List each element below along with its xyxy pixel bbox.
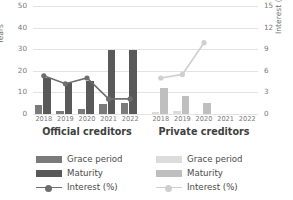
interest-data-point: [41, 73, 46, 78]
legend-marker-interest-private: [156, 184, 182, 191]
legend-item-interest-official[interactable]: Interest (%): [36, 180, 156, 194]
panel-title-official: Official creditors: [33, 126, 141, 137]
legend-swatch-grace-official: [36, 156, 62, 163]
interest-data-point: [63, 81, 68, 86]
legend-swatch-maturity-private: [156, 170, 182, 177]
x-tick-label: 2022: [236, 116, 258, 123]
interest-data-point: [106, 96, 111, 101]
x-tick-label: 2021: [98, 116, 120, 123]
panel-title-private: Private creditors: [150, 126, 258, 137]
legend-item-maturity-private[interactable]: Maturity: [156, 166, 276, 180]
y-tick-right: 9: [264, 45, 286, 52]
panel-official-creditors: 20182019202020212022 Official creditors: [33, 6, 141, 114]
legend-label-interest-private: Interest (%): [187, 183, 238, 192]
legend-private: Grace period Maturity Interest (%): [156, 152, 276, 194]
legend-item-grace-official[interactable]: Grace period: [36, 152, 156, 166]
x-tick-label: 2018: [33, 116, 55, 123]
y-tick-left: 0: [7, 110, 27, 117]
legend-swatch-maturity-official: [36, 170, 62, 177]
legend-swatch-grace-private: [156, 156, 182, 163]
plot-area: 20182019202020212022 Official creditors …: [33, 6, 258, 114]
legend-item-grace-private[interactable]: Grace period: [156, 152, 276, 166]
x-tick-label: 2019: [172, 116, 194, 123]
y-tick-right: 0: [264, 110, 286, 117]
y-tick-right: 15: [264, 2, 286, 9]
legend-official: Grace period Maturity Interest (%): [36, 152, 156, 194]
x-tick-label: 2022: [119, 116, 141, 123]
legend-label-grace-private: Grace period: [187, 155, 243, 164]
legend-item-maturity-official[interactable]: Maturity: [36, 166, 156, 180]
y-tick-left: 30: [7, 45, 27, 52]
interest-line-official: [33, 6, 141, 114]
chart-container: Years Interest (%) 01020304050 03691215 …: [0, 0, 293, 200]
y-tick-right: 6: [264, 67, 286, 74]
interest-line-private: [150, 6, 258, 114]
x-tick-label: 2019: [55, 116, 77, 123]
legend-label-interest-official: Interest (%): [67, 183, 118, 192]
y-tick-left: 20: [7, 67, 27, 74]
x-tick-label: 2018: [150, 116, 172, 123]
legend-label-grace-official: Grace period: [67, 155, 123, 164]
y-tick-right: 12: [264, 24, 286, 31]
panel-private-creditors: 20182019202020212022 Private creditors: [150, 6, 258, 114]
x-tick-label: 2021: [215, 116, 237, 123]
interest-data-point: [201, 40, 206, 45]
interest-data-point: [128, 96, 133, 101]
y-tick-left: 40: [7, 24, 27, 31]
y-tick-right: 3: [264, 88, 286, 95]
y-tick-left: 50: [7, 2, 27, 9]
legend-item-interest-private[interactable]: Interest (%): [156, 180, 276, 194]
x-tick-label: 2020: [76, 116, 98, 123]
y-tick-left: 10: [7, 88, 27, 95]
x-tick-label: 2020: [193, 116, 215, 123]
y-axis-left-title: Years: [0, 24, 5, 44]
legend-marker-interest-official: [36, 184, 62, 191]
legend-label-maturity-official: Maturity: [67, 169, 103, 178]
interest-data-point: [180, 72, 185, 77]
interest-data-point: [84, 75, 89, 80]
interest-data-point: [158, 75, 163, 80]
legend-label-maturity-private: Maturity: [187, 169, 223, 178]
